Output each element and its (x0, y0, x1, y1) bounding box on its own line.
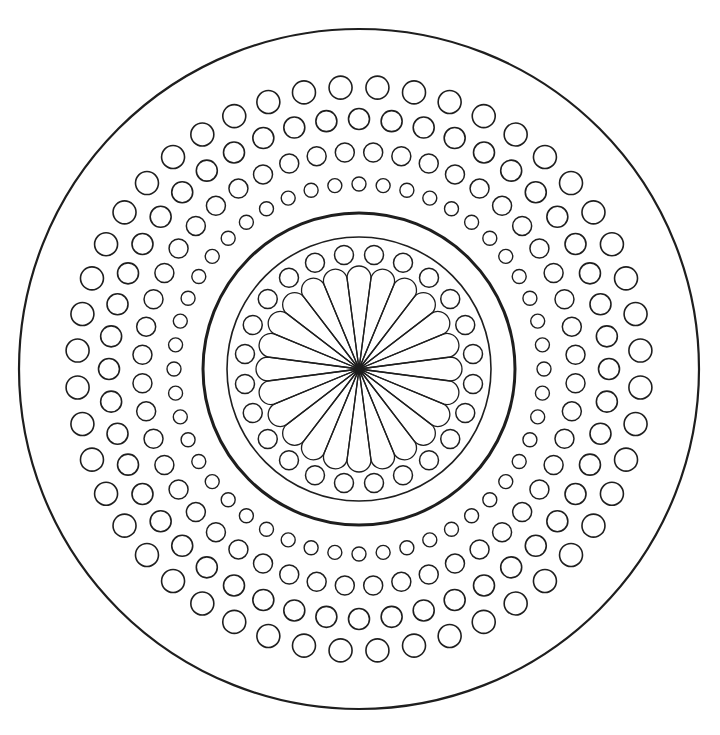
center-hub (357, 367, 361, 371)
mandala-drawing (0, 0, 720, 735)
